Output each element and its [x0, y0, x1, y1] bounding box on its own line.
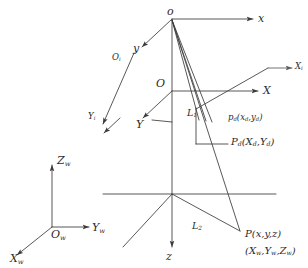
image-y-axis-label: y [133, 43, 139, 54]
world-Y-subscript: w [99, 227, 105, 235]
object-point-camera-label: P(x,y,z) [245, 229, 281, 239]
sensor-X-axis-label: Xi [295, 62, 303, 71]
image-y-axis-line [142, 20, 171, 47]
sensor-X-subscript: i [301, 65, 303, 71]
image-origin-label: o [167, 6, 174, 17]
world-Y-axis-label: Yw [92, 222, 105, 234]
sensor-Y-subscript: i [94, 115, 96, 121]
camera-z-axis-label: z [166, 251, 172, 262]
sensor-origin-subscript: i [119, 56, 121, 62]
far-segment-subscript: 2 [198, 225, 202, 231]
distorted-image-point-label: pd(xd,yd) [228, 113, 263, 122]
world-Z-subscript: w [65, 160, 71, 168]
object-plane-left-edge [123, 194, 172, 247]
sensor-Y-axis-link-line [152, 120, 172, 122]
projection-ray-inner [172, 20, 199, 120]
world-X-subscript: w [18, 258, 24, 266]
object-point-world-label: (Xw,Yw,Zw) [245, 246, 296, 257]
Pd-coords-open: (X [242, 136, 253, 147]
sensor-X-axis-rise-line [196, 68, 268, 109]
projection-geometry-figure: o x y Oi Xi Yi O X Y L1 L2 pd(xd,yd) Pd(… [0, 0, 308, 268]
world-origin-label: Ow [51, 229, 66, 241]
pd-coords-mid: ,y [248, 112, 256, 122]
world-Z-axis-label: Zw [57, 155, 71, 167]
distorted-pixel-point-label: Pd(Xd,Yd) [231, 137, 274, 148]
world-X-axis-label: Xw [10, 253, 24, 265]
Pd-coords-end: ) [270, 136, 274, 147]
sensor-origin-letter: O [112, 52, 119, 62]
pixel-Y-axis-line [143, 91, 172, 118]
far-segment-label: L2 [192, 221, 202, 232]
Pd-letter: P [231, 136, 238, 147]
pd-coords-end: ) [259, 112, 262, 122]
near-segment-label: L1 [187, 108, 197, 119]
near-segment-subscript: 1 [193, 112, 197, 118]
image-x-axis-label: x [258, 13, 264, 24]
sensor-Y-axis-label: Yi [88, 112, 95, 121]
world-origin-letter: O [51, 228, 60, 241]
world-X-letter: X [10, 252, 18, 265]
sensor-Y-axis-arrow-line [104, 118, 120, 133]
Pw-open: (X [245, 245, 256, 256]
pixel-X-axis-label: X [263, 85, 271, 96]
Pw-end: ) [292, 245, 296, 256]
Pw-mid2: ,Z [276, 245, 286, 256]
pixel-origin-label: O [156, 78, 165, 89]
world-origin-subscript: w [60, 234, 66, 242]
sensor-origin-label: Oi [112, 53, 121, 62]
world-Z-letter: Z [57, 154, 65, 167]
pd-coords-open: (x [237, 112, 245, 122]
Pw-mid1: ,Y [261, 245, 271, 256]
sensor-origin-diagonal-line [103, 53, 134, 124]
pixel-Y-axis-label: Y [136, 119, 143, 130]
world-X-axis-line [17, 227, 52, 255]
